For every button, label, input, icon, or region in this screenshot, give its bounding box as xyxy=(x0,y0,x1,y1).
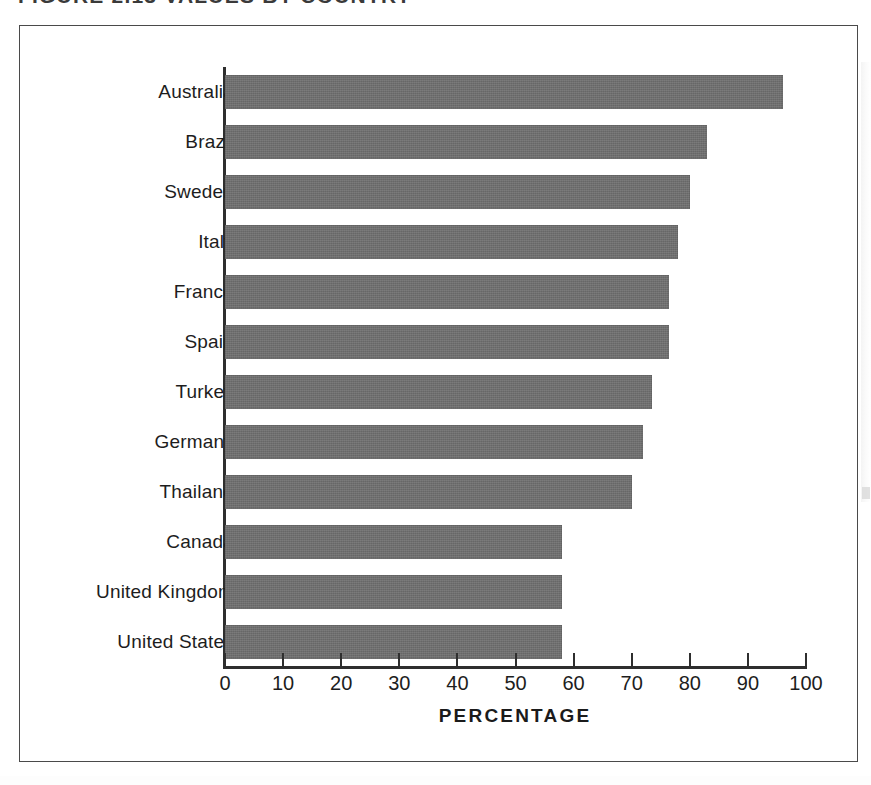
bar-rect xyxy=(225,525,562,558)
bar-rect xyxy=(225,125,707,158)
bar-row: Canada xyxy=(20,525,859,558)
bar-category-label: United States xyxy=(117,631,234,653)
x-axis-tick xyxy=(747,653,749,667)
bar-row: United States xyxy=(20,625,859,658)
x-axis-tick xyxy=(573,653,575,667)
x-axis-tick xyxy=(515,653,517,667)
bar-category-label: Sweden xyxy=(164,181,234,203)
x-axis-tick-label: 20 xyxy=(330,672,352,695)
bar-rect xyxy=(225,75,783,108)
bar-category-label: Canada xyxy=(166,531,234,553)
bar-row: France xyxy=(20,275,859,308)
bar-rect xyxy=(225,375,652,408)
x-axis-tick-label: 100 xyxy=(789,672,822,695)
x-axis-tick xyxy=(631,653,633,667)
figure-caption-clip: FIGURE 2.13 VALUES BY COUNTRY xyxy=(0,0,871,10)
bar-row: United Kingdom xyxy=(20,575,859,608)
x-axis-tick-label: 40 xyxy=(446,672,468,695)
x-axis-tick-label: 60 xyxy=(562,672,584,695)
bar-row: Spain xyxy=(20,325,859,358)
x-axis-tick xyxy=(282,653,284,667)
bar-row: Turkey xyxy=(20,375,859,408)
x-axis-tick xyxy=(224,653,226,667)
bar-row: Brazil xyxy=(20,125,859,158)
x-axis-tick xyxy=(805,653,807,667)
bar-rect xyxy=(225,425,643,458)
x-axis-tick-label: 90 xyxy=(737,672,759,695)
bar-rect xyxy=(225,225,678,258)
bar-category-label: Germany xyxy=(154,431,234,453)
bar-category-label: Thailand xyxy=(160,481,234,503)
bars-group: AustraliaBrazilSwedenItalyFranceSpainTur… xyxy=(20,26,859,763)
bar-rect xyxy=(225,575,562,608)
x-axis-title: PERCENTAGE xyxy=(223,705,807,727)
bar-rect xyxy=(225,275,669,308)
x-axis-tick-label: 10 xyxy=(272,672,294,695)
x-axis-tick-label: 30 xyxy=(388,672,410,695)
figure-frame: AustraliaBrazilSwedenItalyFranceSpainTur… xyxy=(19,25,858,762)
x-axis-tick-label: 0 xyxy=(219,672,230,695)
x-axis-tick-label: 80 xyxy=(679,672,701,695)
x-axis-tick-label: 70 xyxy=(621,672,643,695)
bar-row: Italy xyxy=(20,225,859,258)
x-axis-tick xyxy=(689,653,691,667)
x-axis-tick-label: 50 xyxy=(504,672,526,695)
bar-row: Thailand xyxy=(20,475,859,508)
scan-artifact-right-edge xyxy=(861,62,871,502)
x-axis-tick xyxy=(456,653,458,667)
bar-rect xyxy=(225,625,562,658)
bar-category-label: United Kingdom xyxy=(96,581,234,603)
bar-rect xyxy=(225,175,690,208)
x-axis-tick xyxy=(398,653,400,667)
scan-artifact-bottom-edge xyxy=(0,776,871,785)
scan-artifact-mark xyxy=(862,487,870,499)
figure-caption-text: FIGURE 2.13 VALUES BY COUNTRY xyxy=(18,0,412,8)
bar-rect xyxy=(225,325,669,358)
bar-row: Sweden xyxy=(20,175,859,208)
bar-row: Germany xyxy=(20,425,859,458)
bar-chart-plot: AustraliaBrazilSwedenItalyFranceSpainTur… xyxy=(20,26,859,763)
bar-row: Australia xyxy=(20,75,859,108)
x-axis-tick xyxy=(340,653,342,667)
bar-rect xyxy=(225,475,632,508)
bar-category-label: Australia xyxy=(158,81,234,103)
